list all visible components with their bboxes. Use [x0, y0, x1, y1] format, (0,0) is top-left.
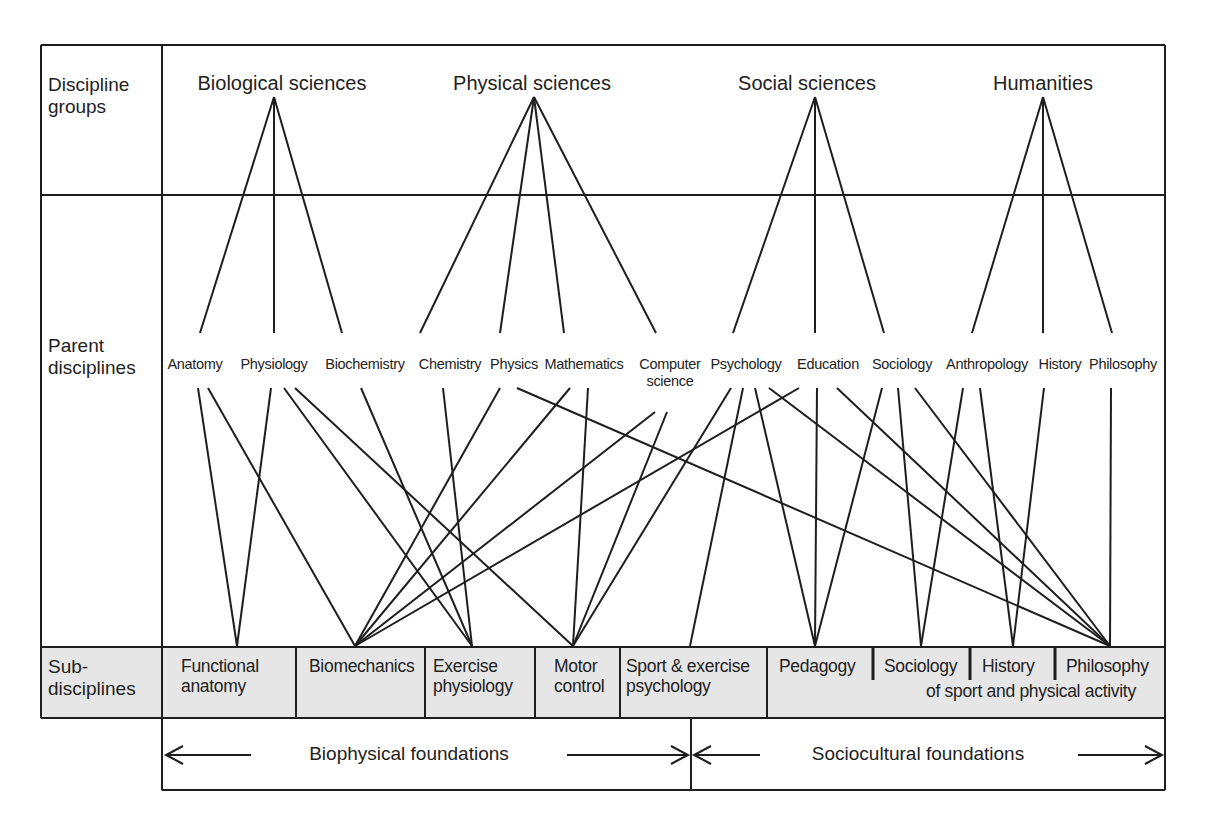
sub-motor-control-line2: control — [554, 676, 604, 696]
parent-chemistry: Chemistry — [419, 356, 482, 373]
foundation-sociocultural: Sociocultural foundations — [812, 743, 1024, 765]
foundation-biophysical: Biophysical foundations — [309, 743, 509, 765]
sub-sport-exercise-psychology-line1: Sport & exercise — [626, 656, 750, 676]
parent-physics: Physics — [490, 356, 538, 373]
parent-to-sub-lines — [198, 388, 1111, 646]
sub-pedagogy: Pedagogy — [779, 656, 855, 676]
connection-line — [1013, 388, 1044, 646]
connection-line — [355, 388, 570, 646]
sub-functional-anatomy-line1: Functional — [181, 656, 259, 676]
sub-sport-exercise-psychology-line2: psychology — [626, 676, 750, 696]
row-label-discipline-groups: Discipline groups — [48, 74, 158, 118]
group-social-sciences: Social sciences — [738, 72, 876, 95]
connection-line — [517, 388, 1110, 646]
row-label-parent-disciplines: Parent disciplines — [48, 335, 158, 379]
group-line — [1043, 97, 1112, 333]
sub-shared-suffix: of sport and physical activity — [926, 681, 1136, 701]
parent-psychology: Psychology — [710, 356, 781, 373]
connection-line — [837, 388, 1110, 646]
group-line — [733, 97, 815, 333]
parent-mathematics: Mathematics — [545, 356, 624, 373]
sub-motor-control: Motor control — [554, 656, 604, 696]
connection-line — [443, 388, 472, 646]
connection-line — [690, 388, 743, 646]
sub-motor-control-line1: Motor — [554, 656, 604, 676]
sub-biomechanics: Biomechanics — [309, 656, 414, 676]
sub-functional-anatomy: Functional anatomy — [181, 656, 259, 696]
connection-line — [898, 388, 921, 646]
group-line — [972, 97, 1043, 333]
connection-line — [815, 388, 882, 646]
group-line — [534, 97, 656, 333]
group-humanities: Humanities — [993, 72, 1093, 95]
connection-line — [980, 388, 1013, 646]
connection-line — [355, 412, 655, 646]
sub-exercise-physiology-line1: Exercise — [433, 656, 513, 676]
group-physical-sciences: Physical sciences — [453, 72, 611, 95]
connection-line — [769, 388, 1110, 646]
connection-line — [295, 388, 573, 646]
connection-line — [355, 388, 799, 646]
sub-biomechanics-line1: Biomechanics — [309, 656, 414, 676]
parent-biochemistry: Biochemistry — [325, 356, 404, 373]
parent-history: History — [1038, 356, 1081, 373]
connection-line — [573, 388, 731, 646]
sub-sociology: Sociology — [884, 656, 957, 676]
connection-line — [921, 388, 963, 646]
sub-philosophy: Philosophy — [1066, 656, 1149, 676]
connection-line — [208, 388, 355, 646]
group-line — [534, 97, 564, 333]
connection-line — [1110, 388, 1111, 646]
group-line — [815, 97, 884, 333]
sub-sport-exercise-psychology: Sport & exercise psychology — [626, 656, 750, 696]
parent-computer-science: Computer science — [635, 356, 705, 389]
connection-line — [915, 388, 1110, 646]
connection-line — [573, 412, 667, 646]
connection-line — [755, 388, 815, 646]
parent-philosophy: Philosophy — [1089, 356, 1157, 373]
parent-anthropology: Anthropology — [946, 356, 1028, 373]
parent-physiology: Physiology — [240, 356, 307, 373]
row-label-sub-disciplines: Sub- disciplines — [48, 656, 160, 700]
group-biological-sciences: Biological sciences — [198, 72, 367, 95]
group-line — [274, 97, 342, 333]
parent-sociology: Sociology — [872, 356, 932, 373]
parent-education: Education — [797, 356, 859, 373]
discipline-diagram — [0, 0, 1208, 828]
sub-exercise-physiology-line2: physiology — [433, 676, 513, 696]
connection-line — [815, 388, 817, 646]
group-to-parent-lines — [200, 97, 1112, 333]
parent-anatomy: Anatomy — [167, 356, 222, 373]
group-line — [200, 97, 274, 333]
connection-line — [237, 388, 271, 646]
sub-history: History — [982, 656, 1034, 676]
sub-functional-anatomy-line2: anatomy — [181, 676, 259, 696]
sub-exercise-physiology: Exercise physiology — [433, 656, 513, 696]
